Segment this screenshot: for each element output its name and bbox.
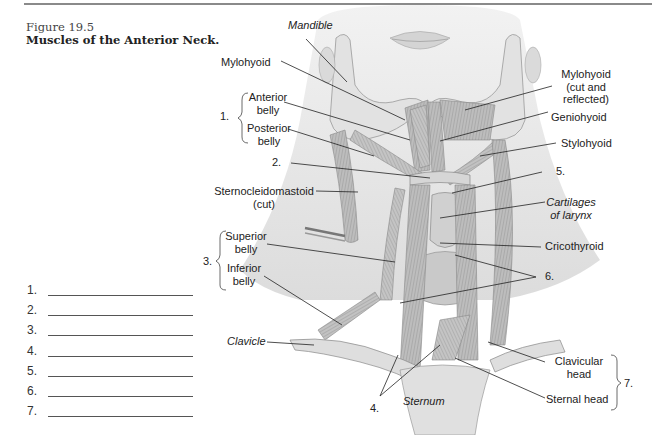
answer-row-7: 7.	[27, 404, 197, 424]
answer-list: 1. 2. 3. 4. 5. 6. 7.	[27, 283, 197, 424]
label-sternum: Sternum	[403, 395, 445, 408]
answer-blank-4[interactable]	[48, 356, 193, 357]
answer-number: 2.	[27, 303, 37, 317]
label-posterior-belly: Posterior belly	[246, 122, 292, 147]
label-stylohyoid: Stylohyoid	[561, 137, 612, 150]
label-6: 6.	[545, 270, 554, 283]
answer-blank-1[interactable]	[48, 295, 193, 296]
answer-blank-7[interactable]	[48, 416, 193, 417]
answer-blank-6[interactable]	[48, 396, 193, 397]
answer-row-1: 1.	[27, 283, 197, 303]
answer-blank-5[interactable]	[48, 376, 193, 377]
answer-number: 1.	[27, 283, 37, 297]
answer-row-5: 5.	[27, 364, 197, 384]
label-cricothyroid: Cricothyroid	[545, 240, 604, 253]
label-sternocleidomastoid: Sternocleidomastoid (cut)	[214, 185, 314, 210]
label-mylohyoid-reflected: Mylohyoid (cut and reflected)	[555, 68, 617, 106]
answer-number: 3.	[27, 323, 37, 337]
label-mylohyoid: Mylohyoid	[221, 56, 271, 69]
answer-row-6: 6.	[27, 384, 197, 404]
answer-number: 4.	[27, 344, 37, 358]
label-sternal-head: Sternal head	[546, 393, 608, 406]
answer-number: 7.	[27, 404, 37, 418]
label-clavicular-head: Clavicular head	[551, 355, 607, 380]
answer-blank-2[interactable]	[48, 315, 193, 316]
label-2: 2.	[272, 156, 281, 169]
label-cartilages-of-larynx: Cartilages of larynx	[541, 196, 601, 221]
answer-number: 6.	[27, 384, 37, 398]
label-inferior-belly: Inferior belly	[222, 262, 266, 287]
label-5: 5.	[556, 165, 565, 178]
label-group-1: 1.	[220, 110, 229, 123]
label-superior-belly: Superior belly	[224, 230, 268, 255]
label-anterior-belly: Anterior belly	[248, 91, 288, 116]
answer-row-2: 2.	[27, 303, 197, 323]
label-geniohyoid: Geniohyoid	[551, 111, 607, 124]
label-group-7: 7.	[624, 377, 633, 390]
answer-number: 5.	[27, 364, 37, 378]
answer-row-4: 4.	[27, 344, 197, 364]
label-group-3: 3.	[203, 255, 212, 268]
label-mandible: Mandible	[288, 19, 333, 32]
answer-row-3: 3.	[27, 323, 197, 343]
answer-blank-3[interactable]	[48, 335, 193, 336]
label-clavicle: Clavicle	[227, 335, 266, 348]
label-4: 4.	[370, 402, 379, 415]
